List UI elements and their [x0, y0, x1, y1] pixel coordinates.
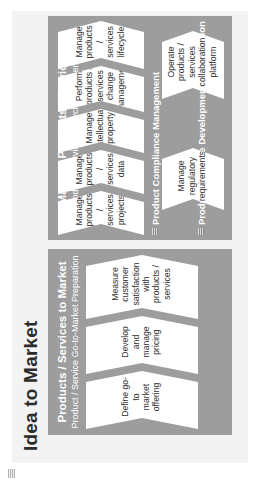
diagram-canvas: Idea to Market Products / Services to Ma… — [0, 0, 258, 487]
band-label-product-compliance-management: Product Compliance Management — [150, 72, 161, 235]
step-line: Manage regulatory — [176, 151, 197, 201]
step-line: Manage products / — [74, 153, 105, 186]
step-line: Manage — [74, 194, 84, 227]
diagram-rotation-wrapper: Idea to Market Products / Services to Ma… — [0, 0, 258, 487]
step-line: requirements — [197, 151, 207, 201]
step-line: Define go-to — [120, 376, 141, 418]
step-line: property — [105, 108, 115, 149]
step-line: Manage — [84, 108, 94, 149]
step-line: satisfaction with — [131, 260, 152, 308]
step-line: Manage products / — [74, 26, 105, 59]
band-label-text: Product Compliance Management — [150, 72, 161, 225]
step-line: manage pricing — [141, 321, 162, 363]
band-marker-icon — [152, 228, 158, 235]
step-line: services data — [105, 153, 126, 186]
step-line: collaboration — [197, 36, 207, 88]
group-title: Products / Services to Market — [56, 249, 69, 435]
group-header: Products / Services to Market Product / … — [56, 249, 81, 435]
step-line: products / services — [151, 260, 172, 308]
page-title: Idea to Market — [20, 320, 42, 451]
step-line: services — [187, 36, 197, 88]
step-line: Operate products / — [166, 36, 187, 88]
step-line: intellectual — [95, 108, 105, 149]
step-line: Measure customer — [110, 260, 131, 308]
step-line: products / services — [84, 194, 115, 227]
band-marker-icon — [198, 228, 204, 235]
group-subtitle: Product / Service Go-to-Market Preparati… — [70, 249, 81, 435]
step-line: Develop and — [120, 321, 141, 363]
step-line: market offering — [141, 376, 162, 418]
step-line: platform — [208, 36, 218, 88]
page-corner-marker-icon — [8, 469, 15, 478]
step-line: projects — [116, 194, 126, 227]
step-line: services lifecycle — [105, 26, 126, 59]
